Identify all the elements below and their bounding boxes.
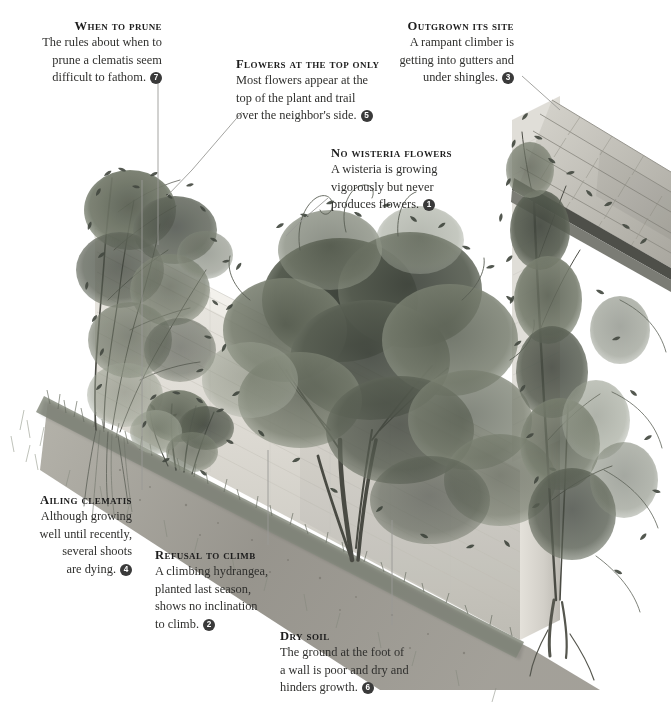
callout-body-line: top of the plant and trail [236,90,416,108]
callout-badge: 6 [362,682,374,694]
callout-title: Dry soil [280,628,448,644]
callout-badge: 2 [203,619,215,631]
callout-title: No wisteria flowers [331,145,491,161]
callout-body-line: A climbing hydrangea, [155,563,305,581]
callout-body: The ground at the foot of a wall is poor… [280,644,448,697]
callout-dry-soil: Dry soil The ground at the foot of a wal… [280,628,448,697]
callout-badge: 7 [150,72,162,84]
callout-body-text: to climb. [155,617,199,631]
callout-body-line: difficult to fathom.7 [14,69,162,87]
callout-body: A rampant climber is getting into gutter… [358,34,514,87]
callout-ailing-clematis: Ailing clematis Although growing well un… [4,492,132,579]
callout-body: A climbing hydrangea, planted last seaso… [155,563,305,633]
illustration-page: When to prune The rules about when to pr… [0,0,671,711]
callout-body: The rules about when to prune a clematis… [14,34,162,87]
callout-body-line: are dying.4 [4,561,132,579]
callout-body-text: produces flowers. [331,197,419,211]
callout-body-line: well until recently, [4,526,132,544]
callout-body-line: under shingles.3 [358,69,514,87]
callout-body-line: several shoots [4,543,132,561]
callout-title: Outgrown its site [358,18,514,34]
callout-outgrown-its-site: Outgrown its site A rampant climber is g… [358,18,514,87]
callout-body-line: The ground at the foot of [280,644,448,662]
callout-badge: 5 [361,110,373,122]
callout-body-text: are dying. [66,562,116,576]
callout-title: Ailing clematis [4,492,132,508]
callout-body-line: over the neighbor's side.5 [236,107,416,125]
callout-title: When to prune [14,18,162,34]
callout-title: Refusal to climb [155,547,305,563]
callout-refusal-to-climb: Refusal to climb A climbing hydrangea, p… [155,547,305,634]
callout-body-line: planted last season, [155,581,305,599]
callout-body-line: produces flowers.1 [331,196,491,214]
callout-body-line: getting into gutters and [358,52,514,70]
callout-body-text: difficult to fathom. [52,70,146,84]
callout-body-line: A wisteria is growing [331,161,491,179]
callout-body: Although growing well until recently, se… [4,508,132,578]
callout-body-line: hinders growth.6 [280,679,448,697]
callout-body: A wisteria is growing vigorously but nev… [331,161,491,214]
callout-body-line: Although growing [4,508,132,526]
callout-body-text: hinders growth. [280,680,358,694]
callout-body-line: The rules about when to [14,34,162,52]
callout-badge: 1 [423,199,435,211]
callout-no-wisteria-flowers: No wisteria flowers A wisteria is growin… [331,145,491,214]
callout-badge: 3 [502,72,514,84]
callout-body-line: shows no inclination [155,598,305,616]
callout-body-text: under shingles. [423,70,498,84]
callout-body-line: prune a clematis seem [14,52,162,70]
callout-body-line: vigorously but never [331,179,491,197]
callout-when-to-prune: When to prune The rules about when to pr… [14,18,162,87]
callout-body-text: over the neighbor's side. [236,108,357,122]
callout-badge: 4 [120,564,132,576]
callout-body-line: A rampant climber is [358,34,514,52]
callout-body-line: a wall is poor and dry and [280,662,448,680]
